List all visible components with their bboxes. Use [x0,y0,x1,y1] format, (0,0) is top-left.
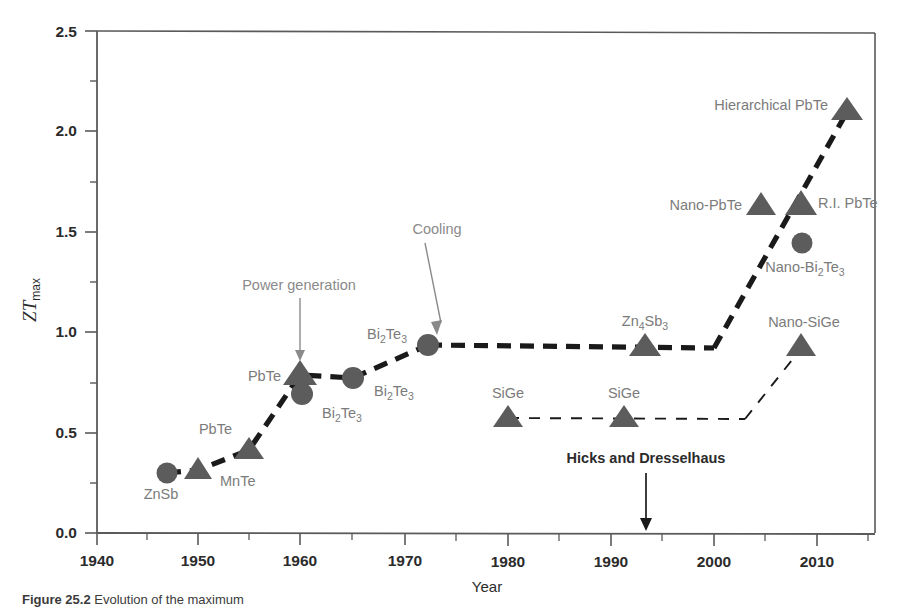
y-tick-label-5: 2.5 [55,23,77,40]
annotation-arrow-cooling-head [431,320,442,335]
x-tick-label-2010: 2010 [800,553,834,570]
x-tick-label-2000: 2000 [697,553,731,570]
data-point-zn4sb3[interactable] [629,333,661,356]
y-axis-ticks [85,31,97,533]
x-tick-label-1990: 1990 [594,553,628,570]
label-sige-1980: SiGe [492,385,524,401]
label-bi2te3-1965: Bi2Te3 [374,383,414,402]
label-mnte: MnTe [220,473,255,489]
y-tick-label-0: 0.0 [55,524,77,541]
label-zn4sb3: Zn4Sb3 [622,313,669,332]
x-tick-label-1980: 1980 [491,553,525,570]
label-bi2te3-1972: Bi2Te3 [367,326,407,345]
data-point-bi2te3-1965[interactable] [342,367,364,389]
figure-caption-number: Figure 25.2 [22,592,91,607]
annotation-label-power-generation: Power generation [242,277,356,293]
y-tick-label-4: 2.0 [55,122,77,139]
data-point-nano-pbte[interactable] [746,192,776,215]
data-point-sige-1991[interactable] [609,405,639,427]
data-point-sige-1980[interactable] [493,405,523,427]
x-axis-ticks [97,533,868,546]
label-bi2te3-1960: Bi2Te3 [322,405,362,424]
annotation-label-hicks-dresselhaus: Hicks and Dresselhaus [567,450,726,466]
x-tick-labels: 1940 1950 1960 1970 1980 1990 2000 2010 [80,552,834,570]
figure-caption: Figure 25.2 Evolution of the maximum [22,592,244,610]
figure-root: 0.0 0.5 1.0 1.5 2.0 2.5 [0,0,904,610]
annotation-arrow-hicks-head [640,518,652,531]
annotation-cooling: Cooling [412,221,461,335]
y-axis-title: ZTmax [19,278,43,322]
figure-caption-body: Evolution of the maximum [94,592,244,607]
y-axis-title-main: ZT [19,299,40,322]
label-pbte-1960: PbTe [248,368,281,384]
data-point-bi2te3-1960[interactable] [291,383,313,405]
data-point-pbte-1960[interactable] [283,360,317,385]
x-tick-label-1940: 1940 [80,552,114,569]
annotation-arrow-cooling-shaft [425,243,441,323]
label-hierarchical-pbte: Hierarchical PbTe [714,97,828,113]
label-znsb: ZnSb [144,486,179,502]
x-tick-label-1970: 1970 [388,552,422,569]
data-point-mnte[interactable] [184,457,212,479]
zt-max-evolution-chart: 0.0 0.5 1.0 1.5 2.0 2.5 [0,0,904,610]
label-ri-pbte: R.I. PbTe [818,195,878,211]
annotation-hicks-dresselhaus: Hicks and Dresselhaus [567,450,726,531]
data-point-pbte-1957[interactable] [234,437,264,459]
label-pbte-1957: PbTe [199,421,232,437]
y-tick-label-1: 0.5 [55,424,77,441]
data-point-ri-pbte[interactable] [785,190,817,215]
x-axis-title: Year [472,578,502,595]
x-tick-label-1960: 1960 [283,552,317,569]
annotation-arrow-power-generation-head [295,350,305,361]
data-point-bi2te3-1972[interactable] [417,334,439,356]
y-tick-labels: 0.0 0.5 1.0 1.5 2.0 2.5 [55,23,77,541]
data-point-nano-sige[interactable] [786,333,816,356]
label-nano-sige: Nano-SiGe [768,314,840,330]
y-tick-label-2: 1.0 [55,323,77,340]
data-point-nano-bi2te3[interactable] [792,233,813,254]
label-nano-bi2te3: Nano-Bi2Te3 [765,259,845,278]
annotation-power-generation: Power generation [242,277,356,361]
data-point-hierarchical-pbte[interactable] [831,97,863,120]
x-tick-label-1950: 1950 [181,552,215,569]
svg-text:ZTmax: ZTmax [19,278,43,322]
y-axis-title-subscript: max [29,278,43,301]
label-nano-pbte: Nano-PbTe [669,197,742,213]
label-sige-1991: SiGe [608,385,640,401]
y-tick-label-3: 1.5 [55,223,77,240]
sige-trend-line [508,350,800,419]
data-point-znsb[interactable] [157,463,178,484]
annotation-label-cooling: Cooling [412,221,461,237]
